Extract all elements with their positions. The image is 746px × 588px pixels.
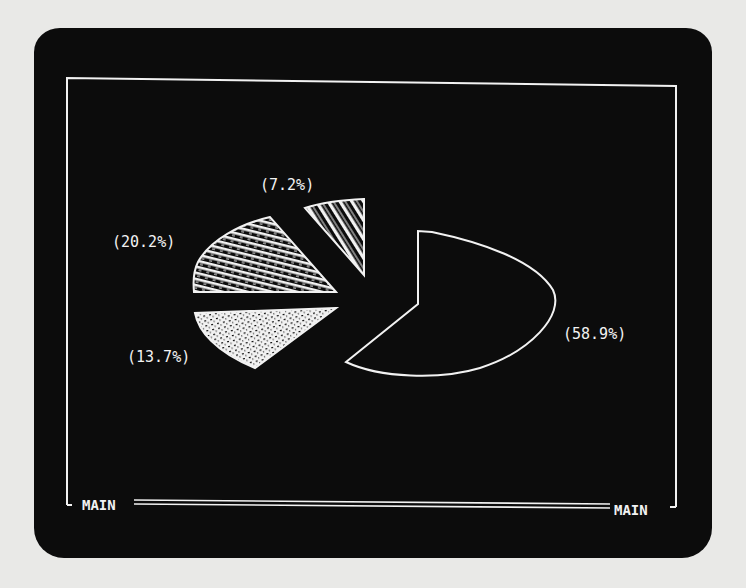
pie-slice-20-2 <box>193 217 336 292</box>
pie-slice-7-2 <box>305 199 364 275</box>
status-label-right: MAIN <box>614 502 648 518</box>
slice-label-7-2: (7.2%) <box>260 176 314 194</box>
slice-label-20-2: (20.2%) <box>112 233 175 251</box>
status-bar-divider <box>134 500 610 508</box>
pie-chart-screen: MAIN MAIN (58.9%) (20.2%) (7.2%) (13.7%) <box>0 0 746 588</box>
screen-frame <box>67 78 676 507</box>
pie-slice-58-9 <box>346 231 555 376</box>
status-label-left: MAIN <box>82 497 116 513</box>
slice-label-13-7: (13.7%) <box>127 348 190 366</box>
pie-slice-13-7 <box>195 308 336 368</box>
slice-label-58-9: (58.9%) <box>563 325 626 343</box>
